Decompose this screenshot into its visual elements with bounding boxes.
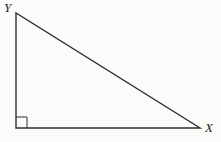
geometry-figure: Y X	[0, 0, 221, 142]
vertex-label-x: X	[204, 120, 214, 135]
right-triangle-svg: Y X	[0, 0, 221, 142]
vertex-label-y: Y	[4, 0, 13, 15]
triangle-outline	[16, 13, 200, 128]
right-angle-marker	[16, 117, 27, 128]
